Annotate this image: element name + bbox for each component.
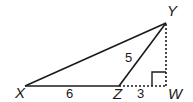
vertex-label-z: Z bbox=[112, 85, 123, 102]
length-label-zw: 3 bbox=[137, 86, 144, 101]
right-angle-marker bbox=[152, 72, 166, 86]
triangle-diagram: X Z W Y 6 5 3 bbox=[0, 0, 193, 102]
length-label-zy: 5 bbox=[125, 50, 132, 65]
length-label-xz: 6 bbox=[66, 86, 73, 101]
vertex-label-x: X bbox=[14, 84, 26, 101]
vertex-label-w: W bbox=[168, 85, 184, 102]
vertex-label-y: Y bbox=[167, 2, 178, 19]
segment-xy bbox=[25, 23, 166, 86]
